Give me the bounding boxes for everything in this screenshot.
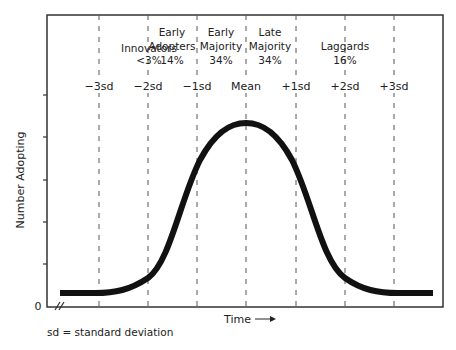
early-majority-share: 34%: [209, 54, 232, 66]
footnote: sd = standard deviation: [47, 326, 173, 338]
early-adopters-share: 14%: [160, 54, 183, 66]
sd-plus2: +2sd: [331, 80, 360, 93]
arrow-right-icon: [255, 316, 276, 322]
x-axis-label: Time: [223, 313, 251, 326]
early-majority-label-2: Majority: [200, 40, 242, 52]
early-majority-label-1: Early: [208, 26, 235, 38]
axis-break-icon: [55, 302, 64, 310]
sd-plus1: +1sd: [282, 80, 311, 93]
early-adopters-label-1: Early: [159, 26, 186, 38]
diffusion-chart: Innovators <3% Early Adopters 14% Early …: [0, 0, 456, 350]
sd-minus1: −1sd: [183, 80, 212, 93]
late-majority-share: 34%: [258, 54, 281, 66]
category-labels: Innovators <3% Early Adopters 14% Early …: [121, 26, 369, 66]
sd-minus3: −3sd: [85, 80, 114, 93]
early-adopters-label-2: Adopters: [148, 40, 195, 52]
sd-plus3: +3sd: [380, 80, 409, 93]
late-majority-label-2: Majority: [249, 40, 291, 52]
innovators-share: <3%: [136, 54, 161, 66]
laggards-label: Laggards: [321, 40, 369, 52]
sd-minus2: −2sd: [134, 80, 163, 93]
sd-labels: −3sd −2sd −1sd Mean +1sd +2sd +3sd: [60, 79, 435, 93]
late-majority-label-1: Late: [259, 26, 282, 38]
y-axis-zero: 0: [35, 300, 42, 313]
plot-frame: [47, 15, 443, 307]
sd-mean: Mean: [231, 80, 261, 93]
laggards-share: 16%: [333, 54, 356, 66]
y-axis-label: Number Adopting: [14, 131, 27, 228]
